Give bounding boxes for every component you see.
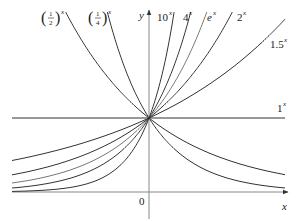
curve-10-x: [12, 12, 174, 191]
base: 2: [237, 11, 243, 23]
base: e: [207, 11, 212, 23]
paren-close: ): [55, 9, 60, 27]
exponent: x: [242, 9, 247, 17]
paren-open: (: [88, 9, 93, 27]
exponent: x: [107, 8, 112, 16]
label-half-pow-x: ( 1 2 ) x: [41, 8, 65, 27]
label-4-pow-x: 4 x: [183, 9, 193, 23]
label-1-pow-x: 1 x: [277, 100, 287, 114]
fraction-num: 1: [49, 10, 53, 18]
paren-close: ): [102, 9, 107, 27]
exponent: x: [60, 8, 65, 16]
base: 1.5: [270, 38, 284, 50]
exponent: x: [188, 9, 193, 17]
fraction-num: 1: [96, 10, 100, 18]
exponent: x: [168, 9, 173, 17]
x-axis-label: x: [281, 200, 287, 212]
base: 10: [157, 11, 169, 23]
fraction-den: 4: [96, 19, 100, 27]
origin-label: 0: [139, 195, 145, 207]
fraction-den: 2: [49, 19, 53, 27]
base: 1: [277, 102, 283, 114]
exponent: x: [283, 36, 288, 44]
y-axis-label: y: [138, 9, 144, 21]
curve-4-x: [12, 12, 191, 188]
label-10-pow-x: 10 x: [157, 9, 173, 23]
curve-e-x: [12, 12, 207, 183]
paren-open: (: [41, 9, 46, 27]
exponential-functions-chart: y x 0 ( 1 2 ) x ( 1 4 ) x 10 x 4 x e x 2…: [0, 0, 297, 221]
label-e-pow-x: e x: [207, 9, 217, 23]
exponent: x: [282, 100, 287, 108]
exponent: x: [212, 9, 217, 17]
label-2-pow-x: 2 x: [237, 9, 247, 23]
label-1.5-pow-x: 1.5 x: [270, 36, 288, 50]
